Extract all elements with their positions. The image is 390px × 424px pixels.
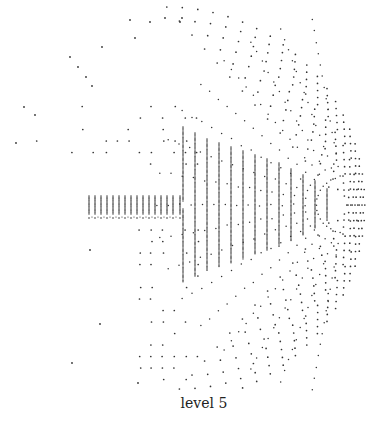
mesh-point	[278, 165, 279, 166]
mesh-point	[151, 321, 153, 323]
mesh-point	[94, 207, 95, 208]
mesh-point	[161, 356, 163, 358]
mesh-point	[230, 218, 231, 219]
mesh-point	[290, 237, 291, 238]
mesh-point	[350, 220, 352, 222]
mesh-point	[321, 254, 323, 256]
mesh-point	[266, 165, 267, 166]
mesh-point	[194, 156, 195, 157]
mesh-point	[194, 221, 195, 222]
mesh-point	[242, 222, 243, 223]
mesh-point	[227, 16, 229, 18]
mesh-point	[267, 72, 269, 74]
mesh-point	[302, 211, 303, 212]
mesh-point	[278, 209, 279, 210]
mesh-point	[142, 195, 143, 196]
mesh-point	[142, 210, 143, 211]
mesh-point	[211, 127, 213, 128]
mesh-point	[320, 245, 322, 247]
mesh-point	[260, 306, 262, 308]
mesh-point	[133, 216, 134, 217]
mesh-point	[242, 21, 244, 23]
mesh-point	[278, 234, 279, 235]
mesh-point	[166, 201, 167, 202]
mesh-point	[230, 148, 231, 149]
mesh-point	[168, 205, 170, 207]
mesh-point	[335, 254, 337, 256]
mesh-point	[305, 172, 307, 174]
mesh-point	[316, 42, 318, 44]
mesh-point	[130, 198, 131, 199]
mesh-point	[278, 197, 279, 198]
mesh-point	[319, 174, 321, 176]
mesh-point	[254, 160, 255, 161]
mesh-point	[182, 137, 183, 138]
mesh-point	[179, 217, 181, 219]
mesh-point	[148, 197, 149, 198]
mesh-point	[336, 294, 338, 296]
mesh-point	[218, 257, 219, 258]
mesh-point	[218, 203, 219, 204]
mesh-point	[206, 141, 207, 142]
mesh-point	[242, 239, 243, 240]
mesh-point	[254, 219, 255, 220]
mesh-point	[326, 200, 327, 201]
mesh-point	[263, 338, 265, 340]
mesh-point	[334, 131, 336, 133]
mesh-point	[88, 213, 89, 214]
mesh-point	[206, 157, 207, 158]
mesh-point	[194, 147, 195, 148]
mesh-point	[182, 194, 183, 195]
mesh-point	[230, 165, 231, 166]
mesh-point	[148, 200, 149, 201]
mesh-point	[302, 198, 303, 199]
mesh-point	[179, 206, 180, 207]
mesh-point	[268, 44, 270, 46]
mesh-point	[269, 373, 271, 375]
mesh-point	[150, 252, 152, 254]
mesh-point	[314, 300, 316, 302]
mesh-point	[182, 255, 183, 256]
mesh-point	[282, 52, 284, 54]
mesh-point	[348, 219, 350, 221]
mesh-point	[275, 122, 277, 124]
mesh-point	[156, 205, 158, 207]
mesh-point	[142, 200, 143, 201]
mesh-point	[124, 199, 125, 200]
mesh-point	[182, 221, 183, 222]
mesh-point	[142, 199, 143, 200]
mesh-point	[118, 217, 120, 219]
mesh-point	[206, 227, 207, 228]
mesh-point	[71, 152, 73, 154]
mesh-point	[124, 209, 125, 210]
mesh-point	[124, 206, 125, 207]
mesh-point	[344, 166, 346, 168]
mesh-point	[266, 234, 267, 235]
mesh-point	[242, 179, 243, 180]
mesh-point	[194, 174, 195, 175]
mesh-point	[266, 169, 267, 170]
mesh-point	[347, 204, 349, 206]
mesh-point	[136, 217, 138, 219]
mesh-point	[218, 99, 220, 101]
mesh-point	[194, 173, 195, 174]
mesh-point	[112, 212, 113, 213]
mesh-point	[130, 207, 131, 208]
mesh-point	[314, 184, 315, 185]
mesh-point	[254, 178, 255, 179]
mesh-point	[305, 160, 307, 162]
mesh-point	[206, 223, 207, 224]
mesh-point	[242, 205, 243, 206]
mesh-point	[160, 210, 161, 211]
mesh-point	[278, 178, 279, 179]
mesh-point	[130, 209, 131, 210]
mesh-point	[218, 174, 219, 175]
mesh-point	[270, 143, 272, 145]
mesh-point	[279, 68, 281, 70]
mesh-point	[254, 170, 255, 171]
mesh-point	[241, 263, 243, 265]
mesh-point	[218, 172, 219, 173]
mesh-point	[118, 204, 119, 205]
mesh-point	[106, 217, 108, 219]
mesh-point	[218, 167, 219, 168]
